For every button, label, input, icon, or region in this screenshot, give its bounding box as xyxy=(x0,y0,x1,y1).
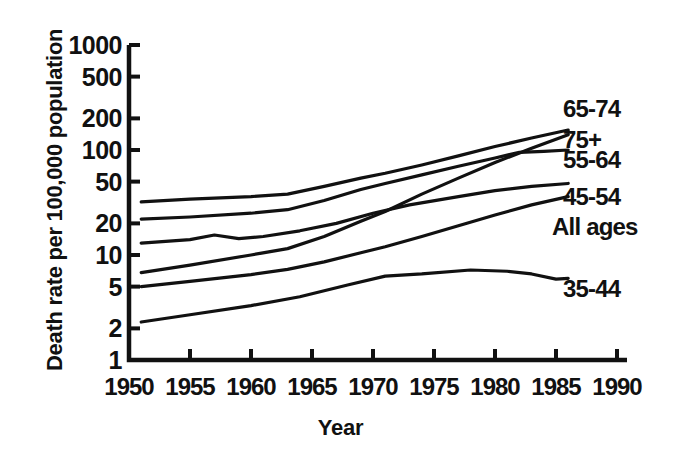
series-label-45-54: 45-54 xyxy=(563,185,620,209)
x-tick-label: 1990 xyxy=(585,375,649,399)
x-tick-label: 1965 xyxy=(280,375,344,399)
series-label-55-64: 55-64 xyxy=(563,148,620,172)
series-line-all-ages xyxy=(141,197,568,287)
x-tick-label: 1960 xyxy=(219,375,283,399)
x-tick-label: 1955 xyxy=(158,375,222,399)
y-tick-label: 50 xyxy=(95,170,122,195)
x-tick-label: 1975 xyxy=(402,375,466,399)
y-tick-label: 1000 xyxy=(68,33,122,58)
y-tick-label: 20 xyxy=(95,211,122,236)
y-tick-label: 10 xyxy=(95,243,122,268)
series-label-all-ages: All ages xyxy=(552,215,638,239)
series-line-35-44 xyxy=(141,270,568,322)
series-label-35-44: 35-44 xyxy=(563,277,620,301)
x-tick-label: 1950 xyxy=(97,375,161,399)
y-tick-label: 5 xyxy=(109,275,122,300)
x-tick-label: 1980 xyxy=(463,375,527,399)
series-label-65-74: 65-74 xyxy=(563,97,620,121)
x-axis-title: Year xyxy=(0,415,681,441)
y-tick-label: 100 xyxy=(82,138,122,163)
chart-container: Death rate per 100,000 population Year 1… xyxy=(0,0,681,458)
x-tick-label: 1970 xyxy=(341,375,405,399)
y-axis-title: Death rate per 100,000 population xyxy=(42,41,68,371)
y-tick-label: 1 xyxy=(109,348,122,373)
y-tick-label: 200 xyxy=(82,106,122,131)
x-tick-label: 1985 xyxy=(524,375,588,399)
y-tick-label: 2 xyxy=(109,316,122,341)
y-tick-label: 500 xyxy=(82,65,122,90)
